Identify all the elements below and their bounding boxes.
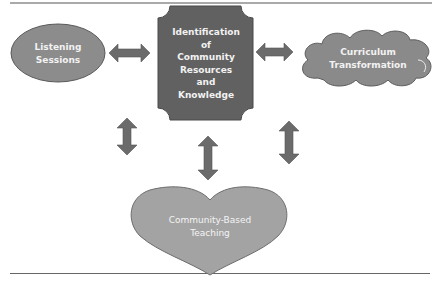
label-line: Resources [158, 64, 254, 77]
double-arrow-right-icon [256, 43, 293, 61]
label-line: Identification [158, 26, 254, 39]
label-line: Listening [18, 41, 98, 54]
label-line: Teaching [160, 227, 260, 240]
double-arrow-vertical-center-icon [198, 136, 218, 180]
teaching-label: Community-Based Teaching [160, 214, 260, 239]
label-line: Knowledge [158, 89, 254, 102]
double-arrow-vertical-left-icon [117, 118, 137, 155]
label-line: Sessions [18, 54, 98, 67]
label-line: of [158, 39, 254, 52]
curriculum-label: Curriculum Transformation [318, 46, 418, 71]
double-arrow-vertical-right-icon [279, 121, 299, 164]
double-arrow-left-icon [109, 44, 150, 62]
label-line: Community [158, 51, 254, 64]
listening-sessions-label: Listening Sessions [18, 41, 98, 66]
identification-label: Identification of Community Resources an… [158, 26, 254, 101]
label-line: Curriculum [318, 46, 418, 59]
label-line: Transformation [318, 59, 418, 72]
label-line: Community-Based [160, 214, 260, 227]
label-line: and [158, 76, 254, 89]
